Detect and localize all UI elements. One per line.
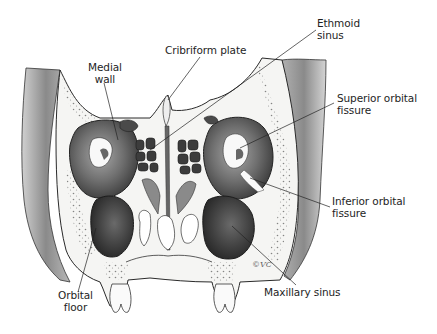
label-orbital-floor: Orbital floor: [58, 289, 93, 313]
left-maxillary-sinus: [91, 196, 134, 257]
label-superior-orbital-fissure: Superior orbital fissure: [337, 92, 417, 116]
label-cribriform-plate: Cribriform plate: [165, 44, 246, 56]
left-tooth: [110, 284, 131, 312]
right-tooth: [214, 284, 235, 312]
label-maxillary-sinus: Maxillary sinus: [264, 286, 340, 298]
label-inferior-orbital-fissure: Inferior orbital fissure: [332, 195, 405, 219]
left-ethmoid-cells: [136, 138, 158, 172]
right-orbit: [204, 117, 273, 199]
anatomy-figure: Medial wall Cribriform plate Ethmoid sin…: [0, 0, 437, 334]
right-maxillary-sinus: [203, 196, 254, 259]
label-ethmoid-sinus: Ethmoid sinus: [317, 17, 360, 41]
artist-signature: ©VC: [252, 260, 272, 269]
label-medial-wall: Medial wall: [88, 61, 122, 85]
